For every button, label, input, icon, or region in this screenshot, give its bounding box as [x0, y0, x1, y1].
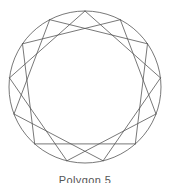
circumscribed-circle: [9, 11, 161, 163]
polygon-chord: [120, 20, 156, 114]
polygon-chord: [23, 44, 35, 144]
polygon-chord: [14, 114, 103, 161]
polygon-chord: [135, 44, 147, 144]
polygon-figure: Polygon 5: [0, 0, 170, 183]
polygon-chord: [103, 78, 160, 161]
polygon-chord: [10, 78, 67, 161]
polygon-chord: [67, 114, 156, 161]
circumscribed-circle-group: [9, 11, 161, 163]
star-polygon-chords: [10, 11, 161, 161]
polygon-vertices: [8, 10, 161, 162]
figure-caption: Polygon 5: [0, 174, 170, 183]
star-polygon-diagram: [0, 0, 170, 183]
polygon-chord: [14, 20, 50, 114]
